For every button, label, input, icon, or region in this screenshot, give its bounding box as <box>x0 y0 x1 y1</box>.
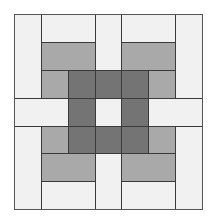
quilt-piece-light <box>175 126 203 210</box>
quilt-piece-medium <box>148 70 176 99</box>
quilt-piece-dark <box>68 98 96 127</box>
quilt-piece-light <box>41 14 96 43</box>
quilt-piece-light <box>121 181 176 210</box>
quilt-piece-medium <box>121 42 176 71</box>
quilt-piece-dark <box>121 126 149 154</box>
quilt-piece-dark <box>68 126 96 154</box>
quilt-piece-light <box>14 98 69 127</box>
quilt-block-diagram <box>0 0 211 222</box>
quilt-piece-medium <box>41 42 96 71</box>
quilt-piece-medium <box>41 70 69 99</box>
quilt-piece-light <box>14 14 42 99</box>
quilt-piece-medium <box>41 126 69 154</box>
quilt-piece-medium <box>41 153 96 182</box>
quilt-piece-light <box>175 14 203 99</box>
quilt-piece-light <box>95 98 122 127</box>
quilt-piece-dark <box>68 70 96 99</box>
quilt-piece-dark <box>95 126 122 154</box>
quilt-piece-dark <box>121 70 149 99</box>
quilt-piece-light <box>95 153 122 210</box>
quilt-piece-light <box>14 126 42 210</box>
quilt-piece-dark <box>95 70 122 99</box>
quilt-piece-medium <box>121 153 176 182</box>
quilt-piece-medium <box>148 126 176 154</box>
quilt-piece-light <box>41 181 96 210</box>
quilt-piece-dark <box>121 98 149 127</box>
quilt-piece-light <box>121 14 176 43</box>
quilt-piece-light <box>148 98 203 127</box>
quilt-piece-light <box>95 14 122 71</box>
